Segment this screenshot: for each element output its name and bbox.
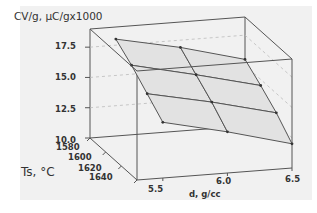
y-tick bbox=[134, 180, 137, 183]
y-tick-label: 1640 bbox=[89, 172, 113, 182]
data-point bbox=[275, 111, 278, 114]
x-axis-label: d, g/cc bbox=[189, 189, 221, 199]
data-point bbox=[244, 58, 247, 61]
x-tick-label: 6.0 bbox=[216, 176, 231, 186]
z-tick-label: 12.5 bbox=[55, 104, 76, 114]
z-tick-label: 15.0 bbox=[55, 72, 76, 82]
y-tick bbox=[118, 166, 121, 169]
z-axis-label: CV/g, μC/gx1000 bbox=[14, 10, 103, 22]
data-point bbox=[161, 121, 164, 124]
surface-patch bbox=[212, 102, 292, 144]
data-point bbox=[195, 73, 198, 76]
box-edge bbox=[137, 168, 292, 180]
data-point bbox=[114, 38, 117, 41]
y-tick-label: 1600 bbox=[68, 152, 92, 162]
y-axis-label: Ts, °C bbox=[20, 165, 55, 179]
data-point bbox=[146, 92, 149, 95]
surface-chart: CV/g, μC/gx1000 Ts, °C d, g/cc 17.5 15.0… bbox=[0, 0, 317, 213]
z-tick-label: 17.5 bbox=[55, 41, 76, 51]
x-tick-label: 6.5 bbox=[285, 174, 300, 184]
data-point bbox=[179, 46, 182, 49]
box-edge bbox=[90, 17, 245, 29]
box-edge bbox=[245, 17, 292, 59]
y-tick bbox=[103, 152, 106, 155]
data-point bbox=[226, 130, 229, 133]
data-point bbox=[291, 142, 294, 145]
x-tick-label: 5.5 bbox=[148, 184, 163, 194]
data-point bbox=[210, 101, 213, 104]
y-tick-label: 1580 bbox=[56, 142, 80, 152]
data-point bbox=[259, 84, 262, 87]
